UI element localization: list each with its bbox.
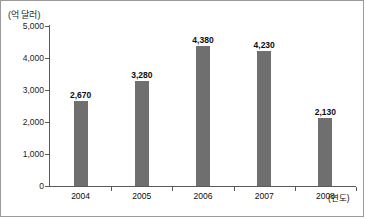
y-tick-label: 4,000: [23, 53, 44, 63]
x-axis-line: [49, 186, 356, 187]
x-tick-mark: [172, 187, 173, 191]
bar-value-label: 4,380: [192, 35, 213, 45]
x-axis-category-label: 2005: [132, 191, 151, 201]
y-tick-mark: [45, 122, 50, 123]
chart-frame: (억 달러) 01,0002,0003,0004,0005,000 2,6703…: [0, 0, 364, 217]
y-axis-line: [49, 25, 50, 187]
x-axis-category-label: 2004: [71, 191, 90, 201]
x-axis-category-label: 2007: [255, 191, 274, 201]
bar: [318, 118, 332, 186]
bar-value-label: 2,130: [315, 107, 336, 117]
y-tick-mark: [45, 90, 50, 91]
x-tick-mark: [356, 187, 357, 191]
y-tick-label: 2,000: [23, 117, 44, 127]
y-tick-mark: [45, 26, 50, 27]
x-tick-mark: [295, 187, 296, 191]
y-tick-mark: [45, 154, 50, 155]
bar: [196, 46, 210, 186]
y-tick-label: 5,000: [23, 21, 44, 31]
x-tick-mark: [234, 187, 235, 191]
y-axis-unit-label: (억 달러): [8, 8, 41, 21]
y-tick-mark: [45, 58, 50, 59]
bar-value-label: 4,230: [254, 40, 275, 50]
y-tick-label: 3,000: [23, 85, 44, 95]
bar-value-label: 3,280: [131, 70, 152, 80]
bar: [257, 51, 271, 186]
bar: [74, 101, 88, 186]
y-tick-label: 1,000: [23, 149, 44, 159]
bar-value-label: 2,670: [70, 90, 91, 100]
x-tick-mark: [111, 187, 112, 191]
x-axis-category-label: 2006: [194, 191, 213, 201]
y-tick-mark: [45, 186, 50, 187]
bar: [135, 81, 149, 186]
y-tick-label: 0: [39, 181, 44, 191]
bar-chart: (억 달러) 01,0002,0003,0004,0005,000 2,6703…: [1, 1, 365, 218]
x-axis-unit-label: (연도): [328, 191, 350, 203]
